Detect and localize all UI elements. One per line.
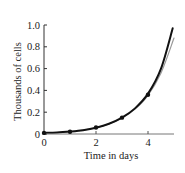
- x-axis-label: Time in days: [84, 150, 138, 161]
- y-tick-label: 0.6: [27, 63, 40, 74]
- data-point: [42, 131, 46, 135]
- y-tick-label: 1.0: [27, 20, 40, 31]
- y-tick-label: 0.8: [27, 41, 40, 52]
- chart-canvas: 00.20.40.60.81.0 024 Time in days Thousa…: [0, 0, 185, 173]
- y-axis-label: Thousands of cells: [12, 42, 23, 121]
- data-point: [94, 125, 98, 129]
- black-curve: [44, 28, 173, 133]
- data-points: [42, 93, 150, 136]
- y-tick-label: 0.2: [27, 107, 40, 118]
- plot-series: [44, 28, 174, 133]
- data-point: [120, 115, 124, 119]
- growth-chart: 00.20.40.60.81.0 024 Time in days Thousa…: [0, 0, 185, 173]
- x-tick-label: 4: [145, 137, 151, 148]
- x-tick-label: 0: [41, 137, 46, 148]
- data-point: [68, 130, 72, 134]
- y-tick-label: 0.4: [27, 85, 41, 96]
- x-tick-label: 2: [93, 137, 98, 148]
- y-tick-label: 0: [35, 129, 40, 140]
- data-point: [146, 93, 150, 97]
- axes: 00.20.40.60.81.0 024: [27, 20, 174, 149]
- gray-curve: [44, 38, 174, 133]
